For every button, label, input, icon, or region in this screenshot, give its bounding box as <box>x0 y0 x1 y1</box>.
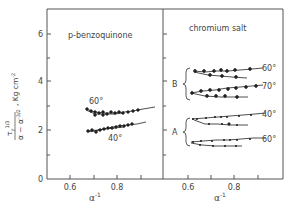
y-tick-2: 2 <box>38 126 43 135</box>
x-tick-right-06: 0.6 <box>182 183 195 192</box>
right-series-A40 <box>192 113 266 126</box>
right-label-A40: 40° <box>262 110 276 119</box>
y-label-denominator: α − α-3/2 <box>15 109 25 140</box>
x-tick-left-06: 0.6 <box>64 183 77 192</box>
x-tick-right-08: 0.8 <box>228 183 241 192</box>
left-label-60: 60° <box>89 97 103 106</box>
x-tick-left-08: 0.8 <box>111 183 124 192</box>
x-ticks <box>70 175 258 179</box>
left-panel-title: p-benzoquinone <box>68 31 133 40</box>
right-panel-title: chromium salt <box>189 24 246 33</box>
x-label-left: α-1 <box>89 191 101 203</box>
x-label-right: α-1 <box>214 191 226 203</box>
right-series-B70 <box>191 85 263 99</box>
left-label-40: 40° <box>108 134 122 143</box>
right-label-A60: 60° <box>262 135 276 144</box>
y-ticks <box>47 34 167 155</box>
left-series-60 <box>86 107 155 116</box>
x-axis-labels: α-1 α-1 <box>89 191 226 203</box>
group-label-B: B <box>172 80 178 89</box>
y-tick-0: 0 <box>38 175 43 184</box>
right-series-B60 <box>194 68 263 79</box>
y-tick-labels: 0 2 4 6 <box>38 30 43 184</box>
y-axis-label: τy1/3 α − α-3/2 , Kg cm-2 <box>4 73 25 140</box>
group-label-A: A <box>172 128 178 137</box>
brace-A <box>183 118 190 146</box>
chart-svg: 0 2 4 6 0.6 0.8 0.6 0.8 α-1 α-1 τy1/3 α … <box>0 0 291 209</box>
y-label-numerator: τy1/3 <box>4 120 16 136</box>
y-label-units: , Kg cm-2 <box>10 73 20 106</box>
left-series-40 <box>87 122 146 133</box>
right-series-A60 <box>191 138 266 147</box>
brace-B <box>183 68 190 100</box>
x-tick-labels: 0.6 0.8 0.6 0.8 <box>64 183 241 192</box>
right-label-B70: 70° <box>262 82 276 91</box>
right-label-B60: 60° <box>262 64 276 73</box>
y-tick-6: 6 <box>38 30 43 39</box>
y-tick-4: 4 <box>38 77 43 86</box>
